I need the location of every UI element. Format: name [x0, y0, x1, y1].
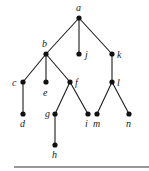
- node-label-h: h: [52, 149, 57, 160]
- node-n: [126, 111, 131, 116]
- node-b: [43, 51, 48, 56]
- edge-b-c: [23, 54, 46, 82]
- node-l: [109, 79, 114, 84]
- node-label-m: m: [93, 118, 100, 129]
- node-label-g: g: [45, 108, 50, 119]
- node-d: [20, 111, 25, 116]
- node-e: [43, 79, 48, 84]
- node-label-e: e: [43, 87, 48, 98]
- node-label-c: c: [12, 77, 17, 88]
- node-m: [94, 111, 99, 116]
- edge-l-m: [97, 82, 112, 114]
- node-a: [76, 15, 81, 20]
- edge-f-g: [55, 82, 70, 114]
- node-label-j: j: [83, 49, 88, 60]
- node-f: [67, 79, 72, 84]
- edge-a-b: [46, 18, 79, 54]
- node-h: [52, 142, 57, 147]
- node-label-l: l: [117, 77, 120, 88]
- node-label-f: f: [75, 77, 79, 88]
- node-c: [20, 79, 25, 84]
- node-j: [76, 51, 81, 56]
- edge-a-k: [79, 18, 112, 54]
- edge-f-i: [70, 82, 88, 114]
- node-label-n: n: [126, 118, 131, 129]
- node-i: [85, 111, 90, 116]
- edge-b-f: [46, 54, 70, 82]
- node-label-d: d: [20, 118, 26, 129]
- edge-l-n: [112, 82, 129, 114]
- node-label-a: a: [76, 2, 81, 13]
- tree-diagram: abjkcefldgimnh: [0, 0, 149, 171]
- node-k: [109, 51, 114, 56]
- node-label-i: i: [85, 118, 88, 129]
- node-label-b: b: [42, 38, 47, 49]
- node-label-k: k: [117, 49, 122, 60]
- node-g: [52, 111, 57, 116]
